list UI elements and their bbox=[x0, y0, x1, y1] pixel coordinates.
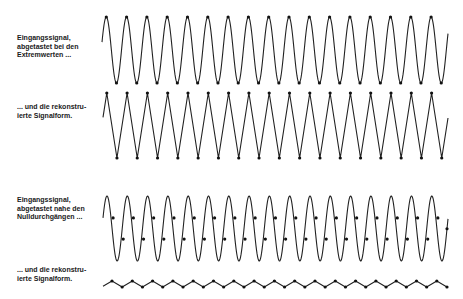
sample-point bbox=[420, 156, 423, 159]
sample-point bbox=[415, 279, 418, 282]
sample-point bbox=[192, 279, 195, 282]
sample-point bbox=[202, 285, 205, 288]
sample-point bbox=[405, 285, 408, 288]
sample-point bbox=[156, 156, 159, 159]
sample-point bbox=[232, 279, 235, 282]
sample-point bbox=[348, 15, 351, 18]
sample-point bbox=[288, 91, 291, 94]
waveform-zero-crossing-input bbox=[103, 196, 449, 261]
signal-curve bbox=[102, 17, 448, 83]
sample-point bbox=[257, 81, 260, 84]
sample-point bbox=[247, 91, 250, 94]
sample-point bbox=[358, 81, 361, 84]
sample-point bbox=[445, 285, 448, 288]
sample-point bbox=[349, 91, 352, 94]
sample-point bbox=[274, 216, 277, 219]
sample-point bbox=[152, 216, 155, 219]
sample-point bbox=[110, 279, 113, 282]
waveform-zero-crossing-reconstructed bbox=[103, 279, 449, 288]
sample-point bbox=[227, 15, 230, 18]
sample-point bbox=[359, 156, 362, 159]
sample-point bbox=[212, 279, 215, 282]
sample-point bbox=[335, 216, 338, 219]
sample-point bbox=[227, 91, 230, 94]
signal-curve bbox=[103, 93, 448, 158]
sample-point bbox=[197, 156, 200, 159]
sample-point bbox=[283, 285, 286, 288]
waveform-extrema-reconstructed bbox=[103, 91, 448, 159]
sample-point bbox=[419, 81, 422, 84]
sample-point bbox=[416, 216, 419, 219]
sample-point bbox=[132, 216, 135, 219]
sample-point bbox=[203, 237, 206, 240]
waveform-extrema-input bbox=[102, 15, 448, 84]
sample-point bbox=[425, 285, 428, 288]
sample-point bbox=[213, 216, 216, 219]
sample-point bbox=[181, 285, 184, 288]
sample-point bbox=[237, 81, 240, 84]
sample-point bbox=[436, 216, 439, 219]
sample-point bbox=[263, 285, 266, 288]
sample-point bbox=[324, 285, 327, 288]
sample-point bbox=[445, 227, 448, 230]
sample-point bbox=[207, 91, 210, 94]
sample-point bbox=[369, 91, 372, 94]
sample-point bbox=[253, 279, 256, 282]
sample-point bbox=[325, 237, 328, 240]
sample-point bbox=[166, 91, 169, 94]
sample-point bbox=[406, 237, 409, 240]
sample-point bbox=[193, 216, 196, 219]
sample-point bbox=[126, 91, 129, 94]
sample-point bbox=[171, 279, 174, 282]
sample-point bbox=[273, 279, 276, 282]
sample-point bbox=[176, 81, 179, 84]
sample-point bbox=[410, 91, 413, 94]
sample-point bbox=[155, 81, 158, 84]
sample-point bbox=[430, 15, 433, 18]
sample-point bbox=[369, 15, 372, 18]
sample-point bbox=[131, 279, 134, 282]
sample-point bbox=[374, 279, 377, 282]
sample-point bbox=[345, 237, 348, 240]
sample-point bbox=[435, 279, 438, 282]
sample-point bbox=[142, 237, 145, 240]
sample-point bbox=[222, 285, 225, 288]
sample-point bbox=[176, 156, 179, 159]
sample-point bbox=[308, 91, 311, 94]
sample-point bbox=[268, 91, 271, 94]
sample-point bbox=[294, 216, 297, 219]
sample-point bbox=[216, 81, 219, 84]
sample-point bbox=[105, 15, 108, 18]
signal-curve bbox=[103, 196, 448, 261]
sample-point bbox=[318, 156, 321, 159]
sample-point bbox=[314, 216, 317, 219]
sample-point bbox=[277, 81, 280, 84]
sample-point bbox=[151, 279, 154, 282]
sample-point bbox=[355, 216, 358, 219]
sample-point bbox=[257, 156, 260, 159]
sample-point bbox=[183, 237, 186, 240]
sample-point bbox=[329, 91, 332, 94]
sample-point bbox=[399, 81, 402, 84]
sample-point bbox=[396, 216, 399, 219]
sample-point bbox=[303, 285, 306, 288]
sample-point bbox=[115, 81, 118, 84]
sample-point bbox=[389, 91, 392, 94]
sample-point bbox=[122, 237, 125, 240]
sample-point bbox=[254, 216, 257, 219]
sample-point bbox=[161, 285, 164, 288]
sample-point bbox=[308, 15, 311, 18]
sample-point bbox=[233, 216, 236, 219]
sample-point bbox=[318, 81, 321, 84]
sample-point bbox=[186, 15, 189, 18]
sample-point bbox=[344, 285, 347, 288]
sample-point bbox=[172, 216, 175, 219]
sample-point bbox=[364, 285, 367, 288]
sample-point bbox=[338, 81, 341, 84]
sample-point bbox=[365, 237, 368, 240]
sample-point bbox=[141, 285, 144, 288]
sample-point bbox=[237, 156, 240, 159]
sample-point bbox=[196, 81, 199, 84]
sample-point bbox=[379, 81, 382, 84]
sample-point bbox=[400, 156, 403, 159]
